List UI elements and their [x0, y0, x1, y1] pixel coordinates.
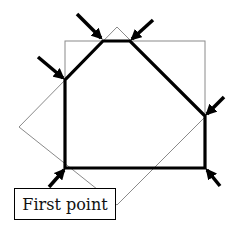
- arrow-icon: [77, 14, 101, 38]
- arrow-icon: [132, 20, 153, 39]
- rotated-square: [19, 27, 206, 205]
- arrow-icon: [49, 170, 64, 187]
- first-point-label-text: First point: [22, 195, 107, 214]
- arrow-icon: [207, 97, 224, 114]
- arrow-icon: [38, 57, 63, 78]
- first-point-label: First point: [14, 188, 116, 220]
- arrow-icon: [207, 170, 220, 186]
- clipped-polygon: [65, 41, 205, 168]
